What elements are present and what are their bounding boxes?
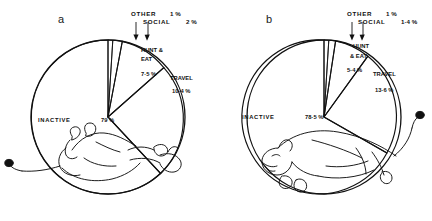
- panel-letter-a: a: [58, 13, 64, 25]
- panel-letter-b: b: [266, 13, 272, 25]
- panel-b-canvas: OTHER 1 % SOCIAL 1·4 % HUNT & EAT 5·4 % …: [216, 0, 432, 221]
- label-other-a: OTHER: [131, 10, 156, 17]
- label-social-a: SOCIAL: [143, 18, 171, 25]
- panel-a-canvas: OTHER 1 % SOCIAL 2 % HUNT & EAT 7·5 % TR…: [0, 0, 216, 221]
- value-hunt-eat-b: 5·4 %: [347, 67, 362, 73]
- value-inactive-a: 79 %: [101, 117, 114, 123]
- label-hunt-eat-line2-a: EAT: [141, 56, 153, 62]
- value-travel-a: 10·4 %: [172, 88, 190, 94]
- label-social-b: SOCIAL: [358, 18, 386, 25]
- value-social-a: 2 %: [186, 18, 197, 25]
- label-inactive-b: INACTIVE: [242, 114, 275, 120]
- lion-illustration-b: [262, 111, 424, 192]
- label-hunt-eat-line1-b: HUNT: [353, 43, 370, 49]
- leader-arrowhead-social-a: [145, 34, 150, 40]
- leader-arrowhead-social-b: [360, 34, 365, 40]
- value-other-a: 1 %: [170, 10, 181, 17]
- value-social-b: 1·4 %: [401, 18, 418, 25]
- leader-arrowhead-other-b: [349, 35, 354, 41]
- value-other-b: 1 %: [386, 10, 397, 17]
- label-hunt-eat-line1-a: HUNT &: [141, 47, 163, 53]
- lion-activity-budget-figure: OTHER 1 % SOCIAL 2 % HUNT & EAT 7·5 % TR…: [0, 0, 432, 221]
- label-travel-a: TRAVEL: [170, 75, 193, 81]
- pie-chart-panel-b: OTHER 1 % SOCIAL 1·4 % HUNT & EAT 5·4 % …: [216, 0, 432, 221]
- value-hunt-eat-a: 7·5 %: [141, 71, 156, 77]
- label-inactive-a: INACTIVE: [38, 117, 71, 123]
- leader-arrowhead-other-a: [133, 35, 138, 41]
- label-hunt-eat-line2-b: & EAT: [350, 53, 367, 59]
- value-inactive-b: 78·5 %: [305, 114, 323, 120]
- label-travel-b: TRAVEL: [373, 71, 396, 77]
- value-travel-b: 13·6 %: [375, 87, 393, 93]
- label-other-b: OTHER: [347, 10, 372, 17]
- pie-slice-travel-a: [108, 68, 183, 174]
- lion-illustration-a: [5, 123, 181, 181]
- pie-chart-panel-a: OTHER 1 % SOCIAL 2 % HUNT & EAT 7·5 % TR…: [0, 0, 216, 221]
